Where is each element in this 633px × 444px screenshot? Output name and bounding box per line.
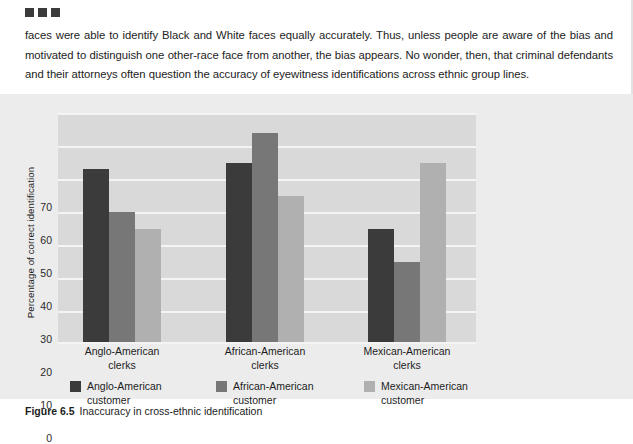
body-paragraph: faces were able to identify Black and Wh… [25, 26, 613, 85]
y-axis-tick-label: 60 [30, 234, 52, 246]
legend-item[interactable]: Anglo-Americancustomer [70, 380, 230, 407]
legend-swatch-icon [364, 381, 375, 392]
bar-group [226, 113, 304, 344]
x-axis-label-line: clerks [332, 358, 482, 372]
legend-swatch-icon [70, 381, 81, 392]
marker-square-icon [38, 8, 47, 17]
legend-swatch-icon [216, 381, 227, 392]
bar [252, 133, 278, 344]
x-axis-category-label: African-Americanclerks [190, 344, 340, 372]
bar [226, 163, 252, 345]
x-axis-category-label: Mexican-Americanclerks [332, 344, 482, 372]
x-axis-category-label: Anglo-Americanclerks [47, 344, 197, 372]
plot-area [58, 113, 476, 344]
x-axis-label-line: African-American [190, 344, 340, 358]
legend-label-line: Anglo-American [87, 380, 162, 394]
figure-caption: Figure 6.5Inaccuracy in cross-ethnic ide… [25, 405, 262, 417]
legend-label: Mexican-Americancustomer [381, 380, 468, 407]
y-axis-tick-label: 50 [30, 267, 52, 279]
legend-item[interactable]: Mexican-Americancustomer [364, 380, 524, 407]
bar [368, 229, 394, 345]
legend-label-line: customer [381, 394, 468, 408]
bar-group [83, 113, 161, 344]
legend-label: African-Americancustomer [233, 380, 314, 407]
x-axis-category-labels: Anglo-AmericanclerksAfrican-Americancler… [58, 344, 476, 378]
bar [420, 163, 446, 345]
y-axis-tick-label: 70 [30, 201, 52, 213]
x-axis-label-line: Mexican-American [332, 344, 482, 358]
legend-label-line: Mexican-American [381, 380, 468, 394]
marker-square-icon [51, 8, 60, 17]
bar [278, 196, 304, 345]
bar [135, 229, 161, 345]
bar-group [368, 113, 446, 344]
bar [83, 169, 109, 344]
legend-label-line: African-American [233, 380, 314, 394]
legend-item[interactable]: African-Americancustomer [216, 380, 376, 407]
x-axis-label-line: Anglo-American [47, 344, 197, 358]
figure-caption-text: Inaccuracy in cross-ethnic identificatio… [80, 405, 263, 417]
y-axis-tick-label: 40 [30, 300, 52, 312]
x-axis-label-line: clerks [190, 358, 340, 372]
bar [394, 262, 420, 345]
legend-label: Anglo-Americancustomer [87, 380, 162, 407]
y-axis-tick-labels: 706050403020100 [26, 207, 52, 438]
marker-square-icon [25, 8, 34, 17]
bar [109, 212, 135, 344]
y-axis-tick-label: 0 [30, 432, 52, 444]
figure-number: Figure 6.5 [25, 405, 75, 417]
section-marker [25, 8, 60, 17]
figure-panel: Percentage of correct identification 706… [0, 94, 633, 399]
x-axis-label-line: clerks [47, 358, 197, 372]
